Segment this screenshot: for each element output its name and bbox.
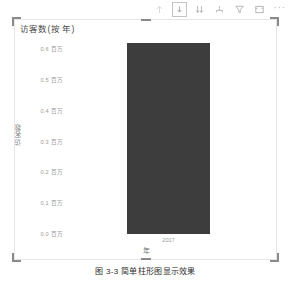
y-axis-tick-label: 0.1 百万 bbox=[40, 199, 63, 207]
x-axis-tick-label: 2017 bbox=[162, 237, 174, 243]
drill-up-icon[interactable] bbox=[152, 2, 167, 17]
y-axis-tick-labels: 0.6 百万0.5 百万0.4 百万0.3 百万0.2 百万0.1 百万0.0 … bbox=[23, 34, 63, 234]
drill-down-icon[interactable] bbox=[172, 2, 187, 17]
focus-mode-icon[interactable] bbox=[252, 2, 267, 17]
visual-toolbar-bar: ··· bbox=[0, 0, 291, 19]
more-options-icon[interactable]: ··· bbox=[272, 2, 287, 17]
figure-caption: 图 3-3 简单柱形图显示效果 bbox=[0, 265, 291, 276]
chart-bar[interactable] bbox=[127, 43, 210, 234]
filter-icon[interactable] bbox=[232, 2, 247, 17]
chart-title: 访客数(按 年) bbox=[20, 22, 75, 34]
chart-bar-slot bbox=[127, 34, 210, 234]
chart-bars-canvas bbox=[65, 34, 272, 234]
y-axis-tick-label: 0.2 百万 bbox=[40, 168, 63, 176]
y-axis-tick-label: 0.6 百万 bbox=[40, 45, 63, 53]
expand-all-down-icon[interactable] bbox=[192, 2, 207, 17]
x-axis-title: 年 bbox=[15, 245, 278, 255]
visual-toolbar: ··· bbox=[152, 1, 287, 18]
chart-plot-area[interactable]: 访客数 0.6 百万0.5 百万0.4 百万0.3 百万0.2 百万0.1 百万… bbox=[15, 34, 278, 261]
y-axis-tick-label: 0.3 百万 bbox=[40, 138, 63, 146]
y-axis-tick-label: 0.5 百万 bbox=[40, 76, 63, 84]
resize-handle-top-center[interactable] bbox=[141, 19, 151, 21]
y-axis-tick-label: 0.4 百万 bbox=[40, 107, 63, 115]
drill-hierarchy-icon[interactable] bbox=[212, 2, 227, 17]
chart-visual-container[interactable]: 访客数(按 年) 访客数 0.6 百万0.5 百万0.4 百万0.3 百万0.2… bbox=[14, 19, 277, 260]
y-axis-tick-label: 0.0 百万 bbox=[40, 230, 63, 238]
